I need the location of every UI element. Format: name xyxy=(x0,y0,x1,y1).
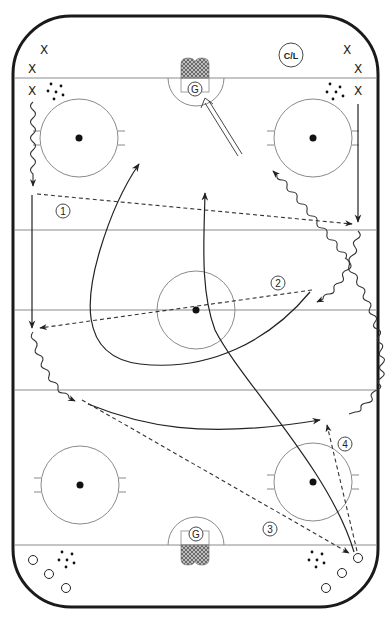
step-label-1: 1 xyxy=(56,204,70,218)
step-label-4: 4 xyxy=(338,437,352,451)
goalie-top-label: G xyxy=(191,84,199,95)
svg-text:2: 2 xyxy=(275,278,281,289)
coach-label: C/L xyxy=(284,51,299,61)
coach-marker: C/L xyxy=(279,43,303,67)
player-x: X xyxy=(354,62,362,76)
goalie-bottom-label: G xyxy=(192,529,200,540)
svg-text:4: 4 xyxy=(342,439,348,450)
svg-text:3: 3 xyxy=(267,524,273,535)
step-label-3: 3 xyxy=(263,522,277,536)
player-x: X xyxy=(40,43,48,57)
player-x: X xyxy=(354,84,362,98)
player-x: X xyxy=(28,84,36,98)
svg-text:1: 1 xyxy=(60,206,66,217)
hockey-rink-diagram: G G C/L X X X X X X xyxy=(0,0,392,619)
step-label-2: 2 xyxy=(271,276,285,290)
center-dot xyxy=(193,307,200,314)
player-x: X xyxy=(343,43,351,57)
player-x: X xyxy=(28,62,36,76)
